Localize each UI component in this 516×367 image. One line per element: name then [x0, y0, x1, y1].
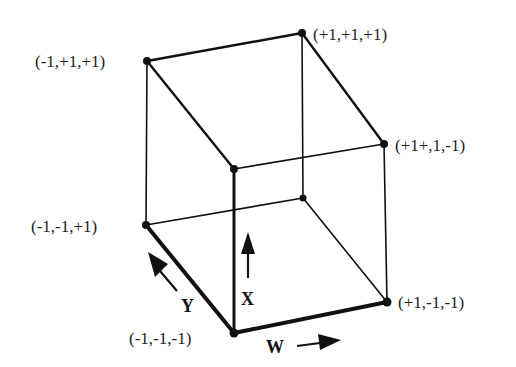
axis-edges	[146, 225, 387, 333]
top-face-edges	[147, 33, 384, 169]
vertex-pmm	[383, 298, 392, 307]
label-mmp: (-1,-1,+1)	[31, 217, 97, 236]
vertex-mmp	[142, 221, 150, 229]
w-arrow-shaft	[297, 343, 320, 346]
label-pmm: (+1,-1,-1)	[398, 293, 464, 312]
vertex-ppm	[380, 140, 388, 148]
edge-top-right-diag	[302, 33, 384, 144]
axis-label-x: X	[241, 289, 254, 309]
y-axis-arrow: Y	[148, 252, 194, 316]
edge-left-vertical	[146, 61, 147, 225]
edge-right-vertical	[384, 144, 387, 302]
edge-back-vertical	[302, 33, 303, 198]
edge-back-bottom-diag	[303, 198, 387, 302]
axis-label-w: W	[266, 337, 284, 357]
label-mpp: (-1,+1,+1)	[35, 52, 105, 71]
vertices	[142, 29, 392, 338]
edge-y-axis	[146, 225, 234, 333]
cube-diagram: (-1,+1,+1) (+1,+1,+1) (+1+,1,-1) (-1,-1,…	[0, 0, 516, 367]
vertex-ppp	[298, 29, 306, 37]
vertex-back-bottom	[300, 195, 307, 202]
edge-back-bottom-left	[146, 198, 303, 225]
w-axis-arrow: W	[266, 334, 341, 357]
edge-mid-top-front	[234, 144, 384, 169]
vertex-front-top	[230, 165, 238, 173]
y-arrow-shaft	[160, 271, 177, 291]
x-arrow-head-icon	[241, 232, 255, 254]
edge-top-left-diag	[147, 61, 234, 169]
vertex-mmm	[230, 329, 239, 338]
edge-w-axis	[234, 302, 387, 333]
y-arrow-head-icon	[148, 252, 168, 277]
label-ppm: (+1+,1,-1)	[395, 136, 465, 155]
w-arrow-head-icon	[318, 334, 341, 350]
edge-top-back	[147, 33, 302, 61]
vertex-mpp	[143, 57, 151, 65]
x-axis-arrow: X	[241, 232, 255, 309]
label-ppp: (+1,+1,+1)	[313, 25, 387, 44]
back-edges	[146, 33, 387, 302]
axis-label-y: Y	[181, 296, 194, 316]
label-mmm: (-1,-1,-1)	[129, 329, 191, 348]
